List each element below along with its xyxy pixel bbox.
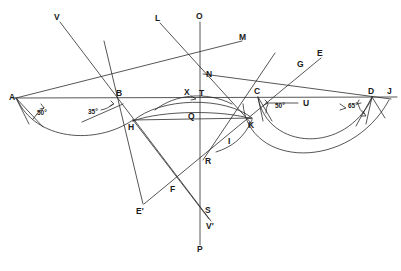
label-Eprime: E' xyxy=(136,206,144,216)
line-Eprime-to-upper xyxy=(104,41,143,204)
label-S: S xyxy=(205,205,211,215)
line-Eprime-to-E xyxy=(144,58,321,204)
label-K: K xyxy=(248,120,255,130)
arrowhead-X xyxy=(191,96,196,100)
label-J: J xyxy=(387,86,392,96)
label-F: F xyxy=(170,184,175,194)
angle-labels: 50° 35° 50° 65° xyxy=(37,102,358,116)
label-P: P xyxy=(197,244,203,254)
angle-label-C: 50° xyxy=(275,102,285,109)
label-U: U xyxy=(303,98,309,108)
line-G-to-R xyxy=(203,53,275,160)
label-X: X xyxy=(184,87,190,97)
label-Vprime: V' xyxy=(206,221,214,231)
label-E: E xyxy=(317,48,323,58)
label-L: L xyxy=(155,13,160,23)
angle-label-A: 50° xyxy=(37,109,47,116)
label-I: I xyxy=(228,136,230,146)
arrowhead-arc-right xyxy=(340,104,346,110)
label-T: T xyxy=(199,88,205,98)
label-B: B xyxy=(116,88,122,98)
label-M: M xyxy=(239,32,246,42)
label-H: H xyxy=(128,122,134,132)
angle-tick-D2 xyxy=(366,97,372,124)
geometric-figure: A B C D J H K N X T Q I R F S G E V L O … xyxy=(0,0,401,271)
label-G: G xyxy=(297,59,304,69)
label-D: D xyxy=(368,86,374,96)
diagram-canvas: A B C D J H K N X T Q I R F S G E V L O … xyxy=(0,0,401,271)
baseline-AJ xyxy=(12,97,397,98)
label-C: C xyxy=(254,86,260,96)
angle-tick-D3 xyxy=(372,97,385,118)
point-labels: A B C D J H K N X T Q I R F S G E V L O … xyxy=(9,11,392,254)
label-A: A xyxy=(9,92,15,102)
angle-label-D: 65° xyxy=(348,102,358,109)
label-V: V xyxy=(54,12,60,22)
angle-label-B: 35° xyxy=(88,108,98,115)
label-N: N xyxy=(206,69,212,79)
label-R: R xyxy=(205,156,211,166)
label-O: O xyxy=(196,11,203,21)
arc-K-left-tail xyxy=(216,120,252,152)
arrowhead-B xyxy=(110,101,114,106)
label-Q: Q xyxy=(188,111,195,121)
arc-K-to-J-outer xyxy=(243,100,389,153)
